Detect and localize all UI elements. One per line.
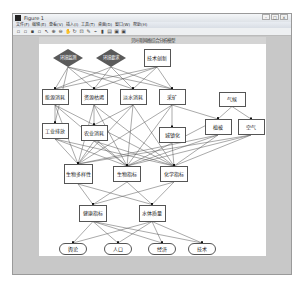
- edge: [73, 222, 152, 244]
- node-label: 城镇化: [165, 132, 180, 138]
- edge: [174, 135, 251, 166]
- node-label: 工业排放: [45, 128, 65, 134]
- graph-node: 技术: [188, 243, 216, 255]
- node-label: 技术创新: [147, 55, 167, 61]
- graph-node: 生物指标: [113, 166, 141, 182]
- graph-node: 农业消耗: [81, 125, 108, 141]
- graph-node: 人口: [104, 243, 132, 255]
- edge: [68, 67, 133, 89]
- node-label: 淡水消耗: [123, 94, 143, 100]
- maximize-button[interactable]: □: [271, 14, 279, 20]
- graph-node: 经济: [148, 243, 176, 255]
- legend-icon[interactable]: ▤: [107, 29, 112, 34]
- print-icon[interactable]: ▫: [37, 29, 42, 34]
- node-label: 资源枯竭: [84, 94, 104, 100]
- zoom-in-icon[interactable]: ⊕: [51, 29, 56, 34]
- edge: [232, 107, 251, 120]
- edge: [93, 222, 162, 244]
- edge: [93, 222, 202, 244]
- node-label: 农业消耗: [84, 130, 104, 136]
- edge: [152, 182, 174, 205]
- save-icon[interactable]: ▪: [30, 29, 35, 34]
- title-bar[interactable]: Figure 1 – □ ×: [13, 14, 291, 22]
- edge: [78, 184, 93, 205]
- graph-node: 空气: [238, 119, 265, 135]
- node-label: 空气: [246, 124, 256, 130]
- datacursor-icon[interactable]: ⊡: [79, 29, 84, 34]
- edge: [133, 67, 157, 89]
- node-label: 人口: [113, 246, 123, 252]
- graph-node: 气候: [219, 92, 246, 107]
- node-label: 生物指标: [117, 171, 137, 177]
- edge: [93, 222, 118, 244]
- graph-node: 淡水消耗: [120, 89, 147, 105]
- rotate-icon[interactable]: ↻: [72, 29, 77, 34]
- edge: [94, 67, 157, 89]
- edge: [94, 141, 127, 166]
- node-label: 植被: [213, 124, 223, 130]
- edge: [55, 139, 78, 164]
- edge: [94, 105, 133, 125]
- plot-axes: 贝叶斯网络综合分析模型 环境监测环境要求技术创新能源消耗资源枯竭淡水消耗采矿气候…: [39, 37, 266, 256]
- edge: [127, 105, 133, 166]
- node-label: 气候: [227, 96, 237, 102]
- edge: [127, 135, 251, 166]
- hide-icon[interactable]: ▣: [114, 29, 119, 34]
- edge: [55, 105, 174, 166]
- edge: [172, 105, 218, 119]
- colorbar-icon[interactable]: ▮: [100, 29, 105, 34]
- graph-node: 健康指标: [79, 205, 107, 222]
- graph-node: 采矿: [159, 89, 186, 105]
- graph-node: 植被: [205, 119, 232, 135]
- graph-node: 资源枯竭: [81, 89, 108, 105]
- node-label: 水体质量: [142, 210, 162, 216]
- node-label: 生物多样性: [66, 171, 91, 177]
- node-label: 舆论: [68, 246, 78, 252]
- figure-window: Figure 1 – □ × 文件(F) 编辑(E) 查看(V) 插入(I) 工…: [12, 13, 292, 275]
- node-label: 能源消耗: [45, 94, 65, 100]
- node-label: 环境要求: [103, 55, 119, 61]
- graph-node: 工业排放: [42, 123, 69, 139]
- zoom-out-icon[interactable]: ⊖: [58, 29, 63, 34]
- window-title: Figure 1: [24, 14, 44, 22]
- pointer-icon[interactable]: ↖: [44, 29, 49, 34]
- graph-node: 环境要求: [96, 49, 126, 67]
- graph-node: 舆论: [59, 243, 87, 255]
- edge: [73, 222, 93, 244]
- graph-node: 化学指标: [160, 166, 188, 182]
- graph-node: 环境监测: [53, 49, 83, 67]
- node-label: 经济: [157, 246, 167, 252]
- graph-node: 能源消耗: [42, 89, 69, 105]
- graph-node: 城镇化: [159, 127, 186, 143]
- graph-node: 技术创新: [144, 49, 171, 67]
- node-label: 技术: [197, 246, 207, 252]
- show-icon[interactable]: ▣: [121, 29, 126, 34]
- edge: [93, 182, 127, 205]
- edge: [55, 67, 68, 89]
- edge: [152, 222, 162, 244]
- edge-layer: [39, 37, 266, 256]
- edge: [93, 182, 174, 205]
- edge: [111, 67, 133, 89]
- toolbar: ▫▫▪▫↖⊕⊖✋↻⊡✎⌁▮▤▣▣: [13, 28, 291, 36]
- open-icon[interactable]: ▫: [23, 29, 28, 34]
- close-button[interactable]: ×: [280, 14, 288, 20]
- edge: [68, 67, 94, 89]
- matlab-figure-icon: [15, 15, 21, 21]
- new-icon[interactable]: ▫: [16, 29, 21, 34]
- graph-node: 水体质量: [139, 205, 166, 222]
- edge: [152, 222, 202, 244]
- node-label: 化学指标: [164, 171, 184, 177]
- edge: [218, 107, 232, 120]
- edge: [157, 67, 172, 89]
- node-label: 环境监测: [60, 55, 76, 61]
- minimize-button[interactable]: –: [262, 14, 270, 20]
- brush-icon[interactable]: ✎: [86, 29, 91, 34]
- link-icon[interactable]: ⌁: [93, 29, 98, 34]
- node-label: 采矿: [167, 94, 177, 100]
- graph-node: 生物多样性: [64, 164, 93, 184]
- node-label: 健康指标: [83, 210, 103, 216]
- pan-icon[interactable]: ✋: [65, 29, 70, 34]
